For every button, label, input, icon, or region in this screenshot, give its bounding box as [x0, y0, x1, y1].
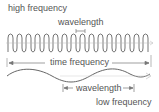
- low-frequency-label: low frequency: [96, 97, 152, 107]
- wavelength-top-marker: [76, 29, 85, 33]
- time-frequency-label: time frequency: [48, 57, 111, 67]
- frequency-diagram: [0, 0, 159, 112]
- wavelength-bottom-label: wavelength: [75, 83, 123, 93]
- low-frequency-wave: [7, 69, 150, 82]
